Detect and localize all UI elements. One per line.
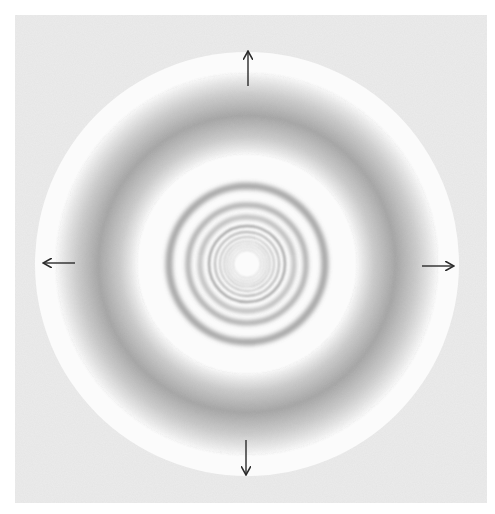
newtons-rings-diagram — [0, 0, 495, 514]
broad-dark-band — [35, 52, 459, 476]
